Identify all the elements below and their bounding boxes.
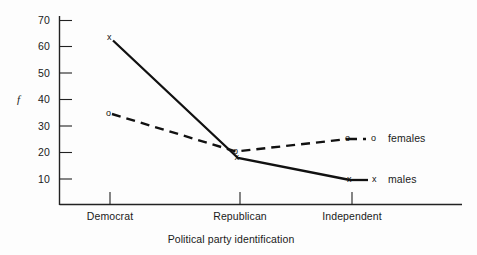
y-tick-label-70: 70 — [24, 14, 50, 26]
y-tick-label-50: 50 — [24, 67, 50, 79]
y-tick-label-30: 30 — [24, 120, 50, 132]
series-line-males — [113, 41, 350, 181]
legend-glyph-males: x — [372, 175, 377, 184]
data-marker-females-democrat: o — [106, 109, 111, 118]
x-tick-label-independent: Independent — [302, 210, 402, 222]
series-line-females — [112, 114, 348, 152]
y-tick-label-60: 60 — [24, 40, 50, 52]
y-tick-label-20: 20 — [24, 146, 50, 158]
data-marker-females-republican: o — [233, 147, 238, 156]
y-tick-marks — [60, 21, 73, 180]
legend-label-males: males — [388, 173, 417, 185]
data-marker-males-independent: x — [347, 175, 352, 184]
y-tick-label-10: 10 — [24, 173, 50, 185]
x-axis-caption: Political party identification — [131, 233, 331, 245]
x-tick-label-democrat: Democrat — [60, 210, 160, 222]
y-axis-caption: f — [17, 93, 20, 105]
y-tick-label-40: 40 — [24, 93, 50, 105]
x-tick-marks — [110, 192, 352, 205]
data-marker-males-democrat: x — [107, 33, 112, 42]
legend-glyph-females: o — [371, 134, 376, 143]
x-tick-label-republican: Republican — [190, 210, 290, 222]
legend-label-females: females — [388, 132, 425, 144]
line-chart-figure: 70 60 50 40 30 20 10 f x x x o o o o fem… — [0, 0, 477, 255]
data-marker-females-independent: o — [345, 134, 350, 143]
